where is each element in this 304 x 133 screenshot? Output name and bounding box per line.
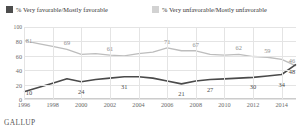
data-point-label: 81 xyxy=(26,36,32,43)
x-tick-label: 2008 xyxy=(190,101,202,108)
data-point-label: 34 xyxy=(278,80,284,87)
legend-label-favorable: % Very favorable/Mostly favorable xyxy=(16,6,108,13)
y-tick-label: 100 xyxy=(14,24,22,30)
data-point-label: 48 xyxy=(289,68,295,75)
x-tick-label: 2002 xyxy=(104,101,116,108)
x-tick-label: 1998 xyxy=(46,101,58,108)
y-tick-label: 80 xyxy=(16,38,22,45)
x-tick-label: 2014 xyxy=(275,101,287,108)
gridline-vertical xyxy=(196,27,197,99)
plot-area: 81696171676259461024312127303448 xyxy=(24,27,296,99)
data-point-label: 61 xyxy=(107,45,113,52)
legend-item-favorable: % Very favorable/Mostly favorable xyxy=(6,6,108,13)
x-tick-label: 2006 xyxy=(161,101,173,108)
data-point-label: 71 xyxy=(164,37,170,44)
data-point-label: 24 xyxy=(78,87,84,94)
legend-item-unfavorable: % Very unfavorable/Mostly unfavorable xyxy=(152,6,267,13)
gridline-vertical xyxy=(224,27,225,99)
x-tick-label: 2012 xyxy=(247,101,259,108)
gridline-vertical xyxy=(110,27,111,99)
data-point-label: 10 xyxy=(26,88,32,95)
data-point-label: 69 xyxy=(64,39,70,46)
chart-container: % Very favorable/Mostly favorable % Very… xyxy=(0,0,304,133)
source-label: GALLUP xyxy=(4,118,36,127)
gridline-horizontal xyxy=(24,99,296,100)
gridline-vertical xyxy=(282,27,283,99)
x-axis-labels: 1996199820002002200420062008201020122014 xyxy=(24,101,296,113)
data-point-label: 27 xyxy=(207,85,213,92)
chart-legend: % Very favorable/Mostly favorable % Very… xyxy=(0,6,304,20)
data-point-label: 62 xyxy=(236,44,242,51)
legend-label-unfavorable: % Very unfavorable/Mostly unfavorable xyxy=(162,6,267,13)
data-point-label: 21 xyxy=(178,89,184,96)
y-axis-labels: 020406080100 xyxy=(0,27,24,99)
x-tick-label: 2000 xyxy=(75,101,87,108)
gridline-vertical xyxy=(139,27,140,99)
data-point-label: 30 xyxy=(250,83,256,90)
y-tick-label: 40 xyxy=(16,67,22,74)
dark-square-icon xyxy=(6,6,13,13)
gridline-horizontal xyxy=(24,70,296,71)
x-tick-label: 2004 xyxy=(132,101,144,108)
x-tick-label: 2010 xyxy=(218,101,230,108)
data-point-label: 46 xyxy=(289,56,295,63)
data-point-label: 59 xyxy=(264,46,270,53)
x-tick-label: 1996 xyxy=(18,101,30,108)
data-point-label: 31 xyxy=(121,82,127,89)
y-tick-label: 20 xyxy=(16,81,22,88)
y-tick-label: 60 xyxy=(16,52,22,59)
light-square-icon xyxy=(152,6,159,13)
gridline-horizontal xyxy=(24,27,296,28)
gridline-vertical xyxy=(53,27,54,99)
data-point-label: 67 xyxy=(193,40,199,47)
gridline-horizontal xyxy=(24,56,296,57)
